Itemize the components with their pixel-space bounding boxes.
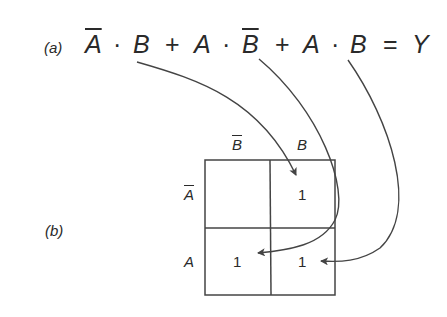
- kmap-cell-a-b: 1: [298, 253, 306, 270]
- row-header-a-bar: A: [184, 186, 194, 203]
- kmap-cell-abar-b: 1: [298, 186, 306, 203]
- arrow-term1: [137, 62, 296, 175]
- karnaugh-map-lines: [0, 0, 447, 317]
- row-header-a: A: [184, 253, 194, 270]
- col-header-b-bar: B: [232, 136, 242, 153]
- col-header-b: B: [297, 136, 307, 153]
- kmap-cell-a-bbar: 1: [233, 253, 241, 270]
